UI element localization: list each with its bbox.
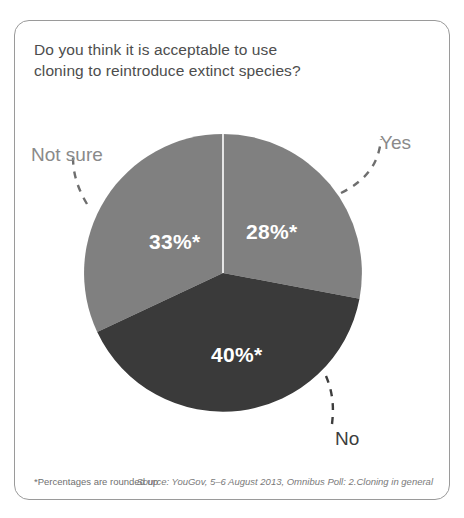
pie-label-yes: Yes [380,132,411,154]
pie-value-not-sure: 33%* [149,230,200,254]
source-text: Source: YouGov, 5–6 August 2013, Omnibus… [136,476,433,487]
leader-line-yes [341,139,381,193]
leader-line-no [326,376,333,424]
pie-slice-yes [223,134,362,299]
poll-card: Do you think it is acceptable to use clo… [14,20,450,500]
pie-chart-graphic [14,20,450,500]
pie-value-yes: 28%* [246,220,297,244]
pie-label-no: No [335,428,359,450]
pie-label-not-sure: Not sure [31,144,103,166]
pie-value-no: 40%* [211,343,262,367]
pie-chart: 28%* 33%* 40%* Yes Not sure No [15,21,449,499]
